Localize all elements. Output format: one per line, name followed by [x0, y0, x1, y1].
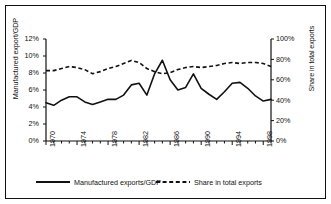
y-tick-label-left: 12%: [17, 35, 39, 42]
x-tick-label: 1986: [173, 131, 180, 147]
legend-label-manufactured-exports-gdp: Manufactured exports/GDP: [74, 179, 161, 186]
y-tick-label-right: 0%: [276, 137, 302, 144]
y-tick-label-left: 6%: [17, 86, 39, 93]
series-line-manufactured-exports-gdp: [46, 60, 271, 105]
x-tick-label: 1982: [142, 131, 149, 147]
y-tick-label-right: 20%: [276, 117, 302, 124]
legend-label-share-in-total-exports: Share in total exports: [194, 179, 262, 186]
y-tick-label-left: 8%: [17, 69, 39, 76]
x-tick-label: 1978: [111, 131, 118, 147]
y-tick-label-left: 10%: [17, 52, 39, 59]
x-tick-label: 1974: [80, 131, 87, 147]
y-tick-label-right: 60%: [276, 76, 302, 83]
y-tick-label-right: 80%: [276, 56, 302, 63]
y-tick-label-right: 40%: [276, 97, 302, 104]
chart-figure: Manufactured export/GDP Share in total e…: [0, 0, 331, 204]
x-tick-label: 1998: [266, 131, 273, 147]
y-tick-label-left: 2%: [17, 120, 39, 127]
y-tick-label-left: 0%: [17, 137, 39, 144]
y-tick-label-left: 4%: [17, 103, 39, 110]
x-tick-label: 1994: [235, 131, 242, 147]
y-tick-label-right: 100%: [276, 35, 302, 42]
x-tick-label: 1990: [204, 131, 211, 147]
axes-group: [46, 39, 271, 141]
x-tick-label: 1970: [49, 131, 56, 147]
